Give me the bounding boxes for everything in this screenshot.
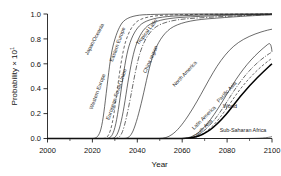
chart-svg: 0.0 0.2 0.4 0.6 0.8 1.0 2000 2020 [0, 0, 281, 176]
y-tick-label: 1.0 [31, 10, 41, 19]
curve-label-western-europe: Western Europe [88, 73, 106, 110]
curve-label-north-america: North America [171, 59, 198, 87]
curve-labels: Japan/Oceania Western Europe Eastern Eur… [83, 18, 266, 140]
series-curve-latin-america [48, 52, 273, 139]
y-tick-label: 0.6 [31, 60, 41, 69]
curve-label-pacific-asia: Pacific Asia [215, 80, 238, 104]
series-curves [48, 14, 273, 139]
x-tick-label: 2080 [219, 146, 236, 155]
y-axis-ticks [44, 14, 48, 139]
x-tick-label: 2100 [264, 146, 281, 155]
series-curve-pacific-asia [48, 44, 273, 139]
curve-label-tropical-latin-america: Tropical Latin [135, 18, 159, 46]
y-axis-tick-labels: 0.0 0.2 0.4 0.6 0.8 1.0 [31, 10, 41, 144]
series-curve-north-america [48, 29, 273, 138]
curve-label-sub-saharan-africa: Sub-Saharan Africa [220, 127, 267, 133]
y-tick-label: 0.4 [31, 84, 41, 93]
x-tick-label: 2020 [84, 146, 101, 155]
series-curve-sub-saharan-africa [48, 136, 273, 138]
y-axis-title-group: Probability × 101 [9, 47, 19, 105]
x-tick-label: 2000 [39, 146, 56, 155]
y-axis-title-text: Probability × 10 [10, 50, 19, 106]
curve-label-japan-oceania: Japan/Oceania [83, 22, 105, 56]
y-tick-label: 0.0 [31, 134, 41, 143]
curve-label-eastern-europe: Eastern Europe [108, 26, 126, 62]
x-tick-label: 2040 [129, 146, 146, 155]
curve-label-world: World [223, 103, 237, 109]
x-axis-tick-labels: 2000 2020 2040 2060 2080 2100 [39, 146, 280, 155]
x-tick-label: 2060 [174, 146, 191, 155]
y-tick-label: 0.8 [31, 35, 41, 44]
y-axis-title-exponent: 1 [9, 47, 15, 50]
y-axis-title: Probability × 101 [9, 47, 19, 105]
y-tick-label: 0.2 [31, 109, 41, 118]
chart-figure: 0.0 0.2 0.4 0.6 0.8 1.0 2000 2020 [0, 0, 281, 176]
x-axis-title: Year [152, 160, 169, 169]
curve-label-china-region: China region [141, 44, 158, 73]
